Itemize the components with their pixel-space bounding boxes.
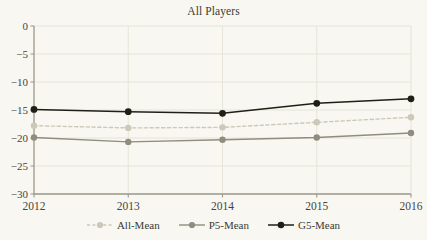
legend-item-p5-mean[interactable]: P5-Mean <box>179 219 249 231</box>
data-point-all-mean[interactable] <box>31 122 37 128</box>
chart-container: All Players 0−5−10−15−20−25−302012201320… <box>0 0 427 240</box>
data-point-p5-mean[interactable] <box>31 134 37 140</box>
y-axis-tick-label: −15 <box>11 104 29 116</box>
y-axis-tick-label: −30 <box>11 188 29 200</box>
data-point-all-mean[interactable] <box>219 124 225 130</box>
x-axis-tick-label: 2013 <box>117 200 140 212</box>
data-point-g5-mean[interactable] <box>31 106 38 113</box>
y-axis-tick-label: −20 <box>11 132 29 144</box>
legend-item-g5-mean[interactable]: G5-Mean <box>268 219 340 231</box>
legend-marker-g5-mean <box>268 220 294 230</box>
legend-label-g5-mean: G5-Mean <box>298 219 340 231</box>
data-point-p5-mean[interactable] <box>314 134 320 140</box>
data-point-g5-mean[interactable] <box>219 110 226 117</box>
y-axis-tick-label: −10 <box>11 76 29 88</box>
data-point-all-mean[interactable] <box>314 119 320 125</box>
legend-item-all-mean[interactable]: All-Mean <box>87 219 160 231</box>
data-point-p5-mean[interactable] <box>219 136 225 142</box>
data-point-p5-mean[interactable] <box>125 139 131 145</box>
data-point-p5-mean[interactable] <box>408 130 414 136</box>
data-point-g5-mean[interactable] <box>125 108 132 115</box>
legend-label-all-mean: All-Mean <box>117 219 160 231</box>
x-axis-tick-label: 2016 <box>400 200 423 212</box>
x-axis-tick-label: 2012 <box>23 200 46 212</box>
y-axis-tick-label: −25 <box>11 160 29 172</box>
chart-legend: All-Mean P5-Mean G5-Mean <box>0 219 427 231</box>
legend-marker-all-mean <box>87 220 113 230</box>
y-axis-tick-label: 0 <box>23 20 29 32</box>
data-point-all-mean[interactable] <box>125 125 131 131</box>
y-axis-tick-label: −5 <box>16 48 28 60</box>
plot-area: 0−5−10−15−20−25−3020122013201420152016 <box>0 0 427 240</box>
data-point-g5-mean[interactable] <box>313 100 320 107</box>
legend-label-p5-mean: P5-Mean <box>209 219 249 231</box>
data-point-all-mean[interactable] <box>408 114 414 120</box>
data-point-g5-mean[interactable] <box>408 95 415 102</box>
x-axis-tick-label: 2015 <box>305 200 328 212</box>
x-axis-tick-label: 2014 <box>211 200 234 212</box>
legend-marker-p5-mean <box>179 220 205 230</box>
